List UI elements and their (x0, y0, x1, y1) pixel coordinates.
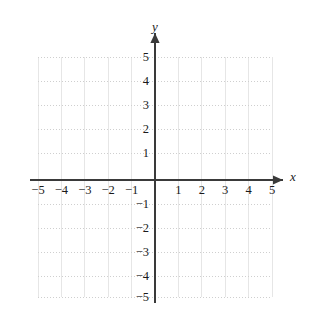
x-tick-label: −3 (78, 184, 91, 197)
coordinate-plane-figure: y x −5 −4 −3 −2 −1 1 2 3 4 5 5 4 3 2 1 −… (0, 0, 310, 317)
y-tick-label: −5 (125, 291, 149, 304)
x-tick-label: 1 (175, 184, 181, 197)
x-axis-label: x (290, 170, 296, 183)
x-tick-label: 2 (199, 184, 205, 197)
y-axis (150, 33, 159, 303)
y-axis-arrowhead (150, 33, 159, 43)
y-tick-label: 3 (131, 99, 149, 112)
x-tick-label: −2 (102, 184, 115, 197)
x-tick-label: −5 (31, 184, 44, 197)
x-tick-label: 3 (222, 184, 228, 197)
y-tick-label: −2 (125, 222, 149, 235)
y-axis-label: y (152, 20, 158, 33)
x-tick-label: −4 (55, 184, 68, 197)
y-tick-label: 4 (131, 75, 149, 88)
y-tick-label: −3 (125, 246, 149, 259)
y-tick-label: −4 (125, 270, 149, 283)
y-tick-label: −1 (125, 198, 149, 211)
y-tick-label: 5 (131, 51, 149, 64)
grid-and-axes (0, 0, 310, 317)
x-tick-label: 5 (269, 184, 275, 197)
y-tick-label: 2 (131, 123, 149, 136)
y-tick-label: 1 (131, 147, 149, 160)
x-tick-label: −1 (125, 184, 138, 197)
x-tick-label: 4 (245, 184, 251, 197)
